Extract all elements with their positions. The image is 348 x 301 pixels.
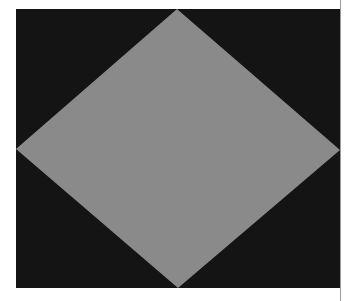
diamond-figure	[16, 9, 340, 288]
figure-canvas	[0, 0, 348, 301]
gray-diamond-shape	[16, 9, 340, 288]
black-background-frame	[16, 9, 340, 288]
right-edge-divider-line	[340, 0, 341, 301]
